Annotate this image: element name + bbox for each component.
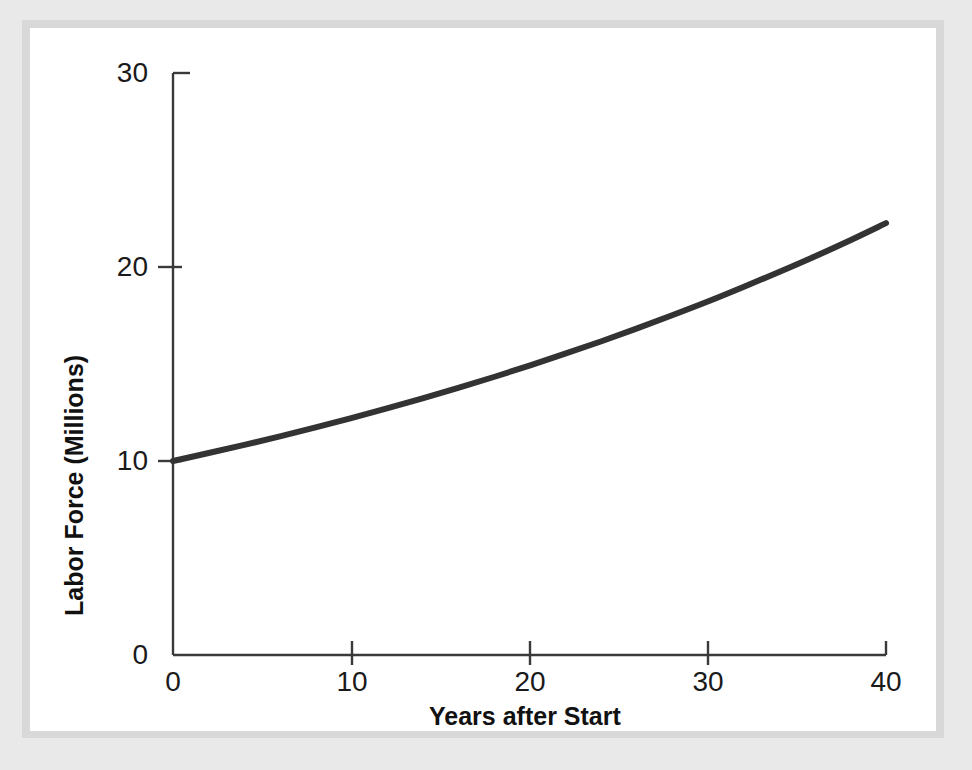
- x-tick-label-30: 30: [678, 668, 738, 696]
- x-tick-label-20: 20: [500, 668, 560, 696]
- y-tick-label-30: 30: [80, 59, 148, 87]
- x-tick-label-40: 40: [856, 668, 916, 696]
- y-tick-label-20: 20: [80, 253, 148, 281]
- plot-area: [30, 28, 936, 731]
- labor-force-curve: [173, 223, 886, 461]
- x-tick-label-10: 10: [322, 668, 382, 696]
- y-tick-label-0: 0: [80, 641, 148, 669]
- x-tick-label-0: 0: [153, 668, 193, 696]
- x-axis-title: Years after Start: [429, 704, 621, 729]
- chart-screenshot: 30 20 10 0 0 10 20 30 40 Labor Force (Mi…: [0, 0, 972, 770]
- y-tick-label-10: 10: [80, 447, 148, 475]
- y-axis-title: Labor Force (Millions): [62, 355, 87, 616]
- figure-panel: 30 20 10 0 0 10 20 30 40 Labor Force (Mi…: [30, 28, 936, 731]
